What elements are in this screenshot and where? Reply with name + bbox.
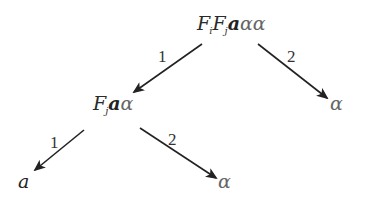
left-right-node: α [218, 172, 231, 191]
root-node: FiFjaαα [197, 14, 266, 36]
left-right-alpha: α [218, 170, 231, 192]
root-alpha-2: α [253, 12, 266, 34]
tree-diagram: FiFjaαα 1 2 Fjaα α 1 2 a α [0, 0, 367, 199]
right-node: α [330, 94, 343, 113]
edge-label-left-leftright: 2 [168, 131, 177, 148]
right-alpha: α [330, 92, 343, 114]
root-alpha-1: α [240, 12, 253, 34]
edge-label-root-right: 2 [287, 48, 296, 65]
edge-left-to-leftleft-arrow [35, 130, 84, 170]
root-a: a [228, 12, 240, 34]
left-a: a [108, 92, 120, 114]
edges-layer [0, 0, 367, 199]
left-node: Fjaα [93, 94, 133, 116]
edge-label-left-leftleft: 1 [50, 134, 59, 151]
left-left-node: a [18, 172, 29, 191]
edge-left-to-leftright-arrow [140, 128, 216, 178]
root-F2: F [212, 12, 225, 34]
edge-root-to-left-arrow [134, 44, 202, 92]
left-left-a: a [18, 170, 29, 192]
edge-label-root-left: 1 [158, 48, 167, 65]
left-alpha: α [121, 92, 134, 114]
